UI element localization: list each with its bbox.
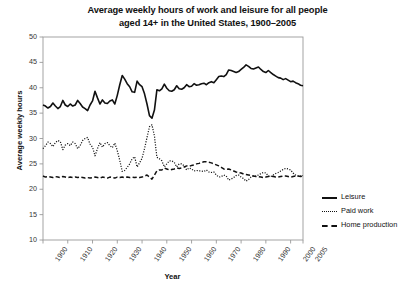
legend-label-home-production: Home production	[341, 220, 397, 230]
legend-item-paid-work: Paid work	[322, 206, 397, 216]
y-tick-label: 15	[17, 210, 37, 219]
legend-item-leisure: Leisure	[322, 192, 397, 202]
chart-container: Average weekly hours of work and leisure…	[0, 0, 415, 293]
legend-swatch-dashed-line	[322, 221, 337, 230]
legend-swatch-dotted-line	[322, 207, 337, 216]
y-tick-label: 40	[17, 83, 37, 92]
y-tick-label: 35	[17, 108, 37, 117]
y-tick-label: 50	[17, 32, 37, 41]
plot-frame	[43, 37, 303, 240]
y-tick-label: 25	[17, 159, 37, 168]
y-tick-label: 30	[17, 134, 37, 143]
y-tick-label: 10	[17, 235, 37, 244]
y-tick-label: 45	[17, 57, 37, 66]
series-line-home-production	[43, 162, 303, 179]
legend-item-home-production: Home production	[322, 220, 397, 230]
legend-label-leisure: Leisure	[341, 192, 365, 202]
legend-label-paid-work: Paid work	[341, 206, 373, 216]
legend-swatch-solid-line	[322, 193, 337, 202]
series-line-paid-work	[43, 125, 303, 181]
series-line-leisure	[43, 65, 303, 118]
y-tick-label: 20	[17, 184, 37, 193]
chart-legend: Leisure Paid work Home production	[322, 192, 397, 234]
